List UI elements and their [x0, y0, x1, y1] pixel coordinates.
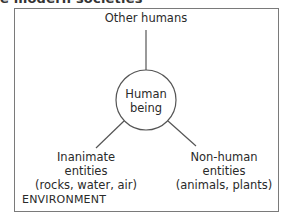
node-other-humans: Other humans	[96, 11, 196, 25]
node-non-human-line3: (animals, plants)	[172, 178, 276, 192]
node-non-human-entities: Non-human entities (animals, plants)	[172, 150, 276, 192]
environment-label: ENVIRONMENT	[22, 193, 106, 207]
node-inanimate-entities: Inanimate entities (rocks, water, air)	[24, 150, 148, 192]
connector-left	[96, 121, 124, 148]
node-other-humans-text: Other humans	[96, 11, 196, 25]
node-inanimate-line1: Inanimate	[24, 150, 148, 164]
connector-right	[168, 121, 196, 146]
node-non-human-line2: entities	[172, 164, 276, 178]
node-human-being-line2: being	[116, 101, 176, 115]
node-inanimate-line2: entities	[24, 164, 148, 178]
node-human-being-line1: Human	[116, 87, 176, 101]
node-non-human-line1: Non-human	[172, 150, 276, 164]
node-inanimate-line3: (rocks, water, air)	[24, 178, 148, 192]
node-human-being: Human being	[116, 87, 176, 115]
